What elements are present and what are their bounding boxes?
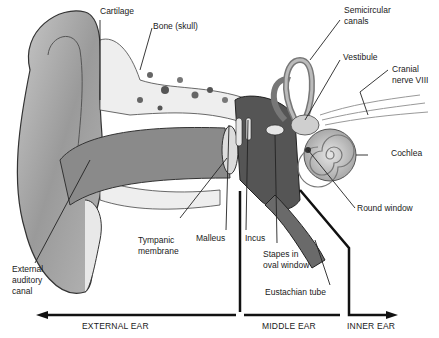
- label-bone-skull: Bone (skull): [153, 21, 198, 31]
- vestibule: [291, 115, 319, 135]
- semicircular-canals: [274, 60, 312, 120]
- label-semicircular-canals-2: canals: [344, 16, 369, 26]
- arrow-left-icon: [36, 311, 48, 319]
- label-tympanic-membrane-2: membrane: [138, 246, 179, 256]
- incus: [246, 118, 251, 140]
- tympanic-membrane: [222, 126, 238, 174]
- ear-illustration: [0, 0, 439, 338]
- label-tympanic-membrane-1: Tympanic: [138, 235, 174, 245]
- label-cranial-nerve-1: Cranial: [392, 64, 419, 74]
- label-stapes-2: oval window: [263, 260, 309, 270]
- arrow-right-icon: [386, 311, 398, 319]
- label-incus: Incus: [245, 233, 265, 243]
- label-cartilage: Cartilage: [100, 6, 134, 16]
- label-stapes-1: Stapes in: [263, 249, 298, 259]
- label-cranial-nerve-2: nerve VIII: [392, 75, 428, 85]
- region-middle-ear: MIDDLE EAR: [262, 321, 316, 331]
- cranial-nerve-viii: [320, 95, 428, 125]
- label-malleus: Malleus: [196, 233, 225, 243]
- label-external-auditory-canal-3: canal: [12, 286, 32, 296]
- label-vestibule: Vestibule: [343, 52, 378, 62]
- region-external-ear: EXTERNAL EAR: [82, 321, 149, 331]
- label-round-window: Round window: [357, 203, 413, 213]
- stapes: [266, 125, 284, 135]
- ear-anatomy-diagram: Cartilage Bone (skull) Semicircular cana…: [0, 0, 439, 338]
- label-external-auditory-canal-2: auditory: [12, 275, 42, 285]
- malleus: [236, 118, 242, 146]
- cochlea: [298, 129, 356, 187]
- label-external-auditory-canal-1: External: [12, 264, 43, 274]
- label-eustachian-tube: Eustachian tube: [265, 287, 326, 297]
- label-semicircular-canals-1: Semicircular: [344, 5, 391, 15]
- label-cochlea: Cochlea: [391, 148, 422, 158]
- region-inner-ear: INNER EAR: [347, 321, 395, 331]
